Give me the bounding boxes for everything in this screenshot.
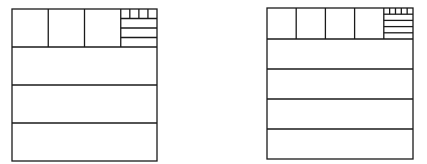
- right-subdivided-square: [0, 0, 427, 164]
- right-figure: [0, 0, 427, 164]
- outer-square: [267, 8, 413, 159]
